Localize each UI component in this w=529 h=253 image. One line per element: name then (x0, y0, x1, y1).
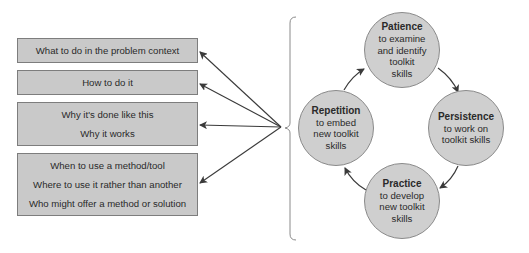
box-how-text: How to do it (82, 73, 133, 92)
persistence-title: Persistence (438, 111, 494, 123)
patience-title: Patience (381, 21, 422, 33)
fan-arrows (200, 52, 281, 183)
box-who-line: Who might offer a method or solution (29, 194, 186, 213)
box-why-line-1: Why it's done like this (62, 105, 154, 124)
arrow-to-box-1 (200, 52, 281, 127)
box-why: Why it's done like this Why it works (17, 102, 198, 146)
practice-line-1: to develop (380, 190, 424, 202)
repetition-line-2: new toolkit (313, 128, 358, 140)
arrow-to-box-2 (200, 84, 281, 127)
practice-title: Practice (383, 178, 422, 190)
practice-line-2: new toolkit (379, 201, 424, 213)
persistence-line-2: toolkit skills (442, 134, 491, 146)
arrow-repetition-to-patience (344, 69, 364, 90)
repetition-title: Repetition (312, 105, 361, 117)
circle-patience: Patience to examine and identify toolkit… (364, 12, 440, 88)
circle-persistence: Persistence to work on toolkit skills (428, 90, 504, 166)
box-what-text: What to do in the problem context (36, 41, 179, 60)
persistence-line-1: to work on (444, 123, 488, 135)
practice-line-3: skills (392, 213, 413, 225)
arrow-to-box-4 (200, 127, 281, 183)
box-what: What to do in the problem context (17, 38, 198, 63)
patience-line-1: to examine (379, 33, 426, 45)
arrow-to-box-3 (200, 125, 281, 127)
box-when-where-who: When to use a method/tool Where to use i… (17, 153, 198, 216)
patience-line-3: toolkit (389, 56, 414, 68)
arrow-patience-to-persistence (438, 68, 458, 92)
repetition-line-3: skills (326, 140, 347, 152)
box-how: How to do it (17, 70, 198, 95)
repetition-line-1: to embed (316, 117, 356, 129)
circle-repetition: Repetition to embed new toolkit skills (298, 90, 374, 166)
circle-practice: Practice to develop new toolkit skills (364, 163, 440, 239)
patience-line-2: and identify (377, 45, 426, 57)
arrow-practice-to-repetition (345, 168, 366, 190)
curly-bracket (285, 17, 296, 240)
patience-line-4: skills (392, 68, 413, 80)
box-when-line: When to use a method/tool (50, 156, 165, 175)
arrow-persistence-to-practice (440, 166, 458, 188)
box-where-line: Where to use it rather than another (33, 175, 182, 194)
box-why-line-2: Why it works (80, 124, 134, 143)
